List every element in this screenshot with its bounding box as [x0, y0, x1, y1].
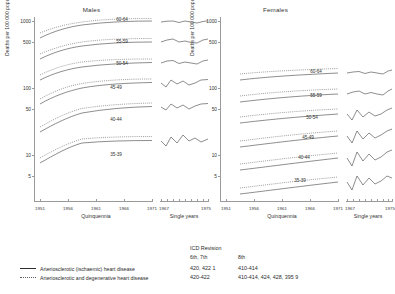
x-tick-label-1966-males: 1966	[119, 206, 129, 211]
x-tick-label-1956-females: 1956	[249, 206, 259, 211]
plot-area-males: 1000 500 100 50 10 5 1951 1956 1961 1966…	[34, 17, 174, 202]
x-tick-label-1967-males: 1967	[159, 206, 169, 211]
curves-females	[220, 17, 360, 202]
x-tick-1972-females	[377, 199, 378, 202]
panel-title-males: Males	[0, 6, 183, 13]
legend-label-dotted: Arteriosclerotic and degenerative heart …	[40, 275, 148, 281]
icd-table-header-row: 6th, 7th 8th	[190, 254, 348, 260]
x-tick-1973-females	[383, 199, 384, 202]
x-tick-label-1951-males: 1951	[35, 206, 45, 211]
y-tick-label-50-females: 50	[212, 107, 217, 112]
x-tick-1971s-females	[371, 199, 372, 202]
x-tick-label-1966-females: 1966	[305, 206, 315, 211]
panel-title-females: Females	[184, 6, 367, 13]
x-tick-label-1971-males: 1971	[147, 206, 157, 211]
y-tick-label-500-females: 500	[209, 40, 217, 45]
y-tick-label-5-females: 5	[214, 174, 217, 179]
x-group-label-single-females: Single years	[354, 213, 383, 219]
x-group-label-quinquennia-females: Quinquennia	[267, 213, 296, 219]
icd-table-title: ICD Revision	[190, 245, 348, 251]
icd-column-header-6th-7th: 6th, 7th	[190, 254, 238, 260]
y-tick-label-10-males: 10	[26, 153, 31, 158]
panel-males: Males Deaths per 100 000 population ( lo…	[0, 0, 183, 234]
icd-table-row: 420, 422 1 410-414	[190, 263, 348, 272]
y-tick-label-50-males: 50	[26, 107, 31, 112]
icd-cell-row1-col1: 420-422	[190, 274, 238, 280]
icd-cell-row0-col1: 420, 422 1	[190, 265, 238, 271]
legend-item-solid: Arteriosclerotic (ischaemic) heart disea…	[20, 264, 195, 273]
panel-females: Females Deaths per 100 000 population ( …	[184, 0, 367, 234]
x-tick-label-1951-females: 1951	[221, 206, 231, 211]
legend-swatch-dotted-line-icon	[20, 277, 36, 278]
x-group-label-quinquennia-males: Quinquennia	[81, 213, 110, 219]
icd-table-row: 420-422 410-414, 424, 428, 395 9	[190, 272, 348, 281]
x-tick-1974-females	[388, 199, 389, 202]
x-tick-label-1956-males: 1956	[63, 206, 73, 211]
y-tick-label-1000-males: 1000	[20, 19, 31, 24]
legend-item-dotted: Arteriosclerotic and degenerative heart …	[20, 273, 195, 282]
y-axis-label-females: Deaths per 100 000 population ( log scal…	[189, 0, 195, 56]
x-tick-1970-females	[365, 199, 366, 202]
icd-cell-row1-col2: 410-414, 424, 428, 395 9	[238, 274, 348, 280]
x-tick-label-1967-females: 1967	[345, 206, 355, 211]
legend-label-solid: Arteriosclerotic (ischaemic) heart disea…	[40, 266, 135, 272]
x-tick-1970-males	[179, 199, 180, 202]
y-tick-label-100-males: 100	[23, 86, 31, 91]
curves-males	[34, 17, 174, 202]
icd-column-header-8th: 8th	[238, 254, 348, 260]
x-tick-label-1971-females: 1971	[333, 206, 343, 211]
x-tick-label-1961-males: 1961	[91, 206, 101, 211]
y-tick-label-100-females: 100	[209, 86, 217, 91]
icd-revision-table: ICD Revision 6th, 7th 8th 420, 422 1 410…	[190, 245, 348, 281]
y-tick-label-1000-females: 1000	[206, 19, 217, 24]
legend-swatch-solid-line-icon	[20, 268, 36, 269]
y-tick-label-5-males: 5	[28, 174, 31, 179]
x-tick-1975-females	[392, 199, 393, 202]
y-tick-label-500-males: 500	[23, 40, 31, 45]
icd-cell-row0-col2: 410-414	[238, 265, 348, 271]
legend: Arteriosclerotic (ischaemic) heart disea…	[20, 264, 195, 282]
y-tick-label-10-females: 10	[212, 153, 217, 158]
x-tick-label-1975-females: 1975	[385, 206, 395, 211]
plot-area-females: 1000 500 100 50 10 5 1951 1956 1961 1966…	[220, 17, 360, 202]
y-axis-label-males: Deaths per 100 000 population ( log scal…	[4, 0, 10, 56]
x-tick-label-1961-females: 1961	[277, 206, 287, 211]
